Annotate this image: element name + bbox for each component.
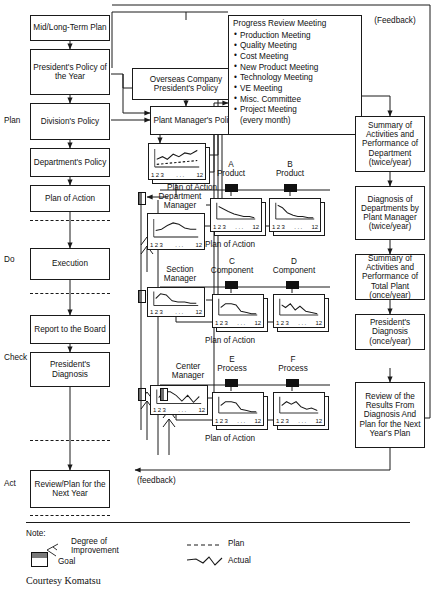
axis-tick-end: 12 — [316, 418, 322, 424]
axis-tick-end: 12 — [253, 224, 259, 230]
pdca-label-plan: Plan — [4, 116, 20, 125]
pdca-separator-check-act — [30, 440, 110, 441]
axis-tick-dots: . . . — [298, 418, 306, 424]
prm-item-cost[interactable]: Cost Meeting — [240, 52, 326, 63]
axis-tick-end: 12 — [196, 309, 202, 315]
goal-marker-d-component — [286, 281, 299, 289]
box-presidents-policy-of-the-year[interactable]: President's Policy of the Year — [30, 49, 110, 95]
chart-a-product[interactable]: 1 2 3 . . . 12 — [210, 198, 262, 232]
goal-marker-c-component — [225, 281, 238, 289]
box-review-of-results[interactable]: Review of the Results From Diagnosis And… — [355, 382, 425, 448]
prm-item-ve[interactable]: VE Meeting — [240, 84, 326, 95]
box-summary-department[interactable]: Summary of Activities and Performance of… — [355, 116, 425, 172]
chart-axis: 1 2 3 . . . 12 — [274, 320, 324, 327]
legend-actual-label: Actual — [228, 556, 251, 565]
chart-c-component[interactable]: 1 2 3 . . . 12 — [212, 294, 264, 328]
feedback-label-top: (Feedback) — [360, 16, 430, 25]
chart-axis: 1 2 3 . . . 12 — [151, 407, 207, 414]
chart-face: 1 2 3 . . . 12 — [147, 287, 205, 317]
chart-f-process[interactable]: 1 2 3 . . . 12 — [273, 392, 325, 426]
chart-plot — [149, 144, 205, 172]
note-divider — [26, 522, 410, 523]
label-f-process: F Process — [267, 355, 319, 373]
axis-tick-dots: . . . — [237, 418, 245, 424]
axis-tick-dots: . . . — [178, 407, 186, 413]
prm-frequency-note: (every month) — [240, 116, 326, 127]
chart-center-manager[interactable]: 1 2 3 . . . 12 — [150, 385, 208, 415]
axis-tick-end: 12 — [197, 172, 203, 178]
note-label: Note: — [26, 529, 46, 538]
box-review-plan-next-year[interactable]: Review/Plan for the Next Year — [30, 470, 110, 508]
box-presidents-diagnosis-once-year[interactable]: President's Diagnosis (once/year) — [355, 314, 425, 350]
prm-item-technology[interactable]: Technology Meeting — [240, 73, 326, 84]
box-plan-of-action[interactable]: Plan of Action — [30, 185, 110, 212]
box-presidents-diagnosis[interactable]: President's Diagnosis — [30, 352, 110, 387]
courtesy-credit: Courtesy Komatsu — [26, 575, 101, 586]
axis-tick-start: 1 2 3 — [272, 224, 285, 230]
axis-tick-start: 1 2 3 — [276, 418, 289, 424]
chart-face: 1 2 3 . . . 12 — [212, 392, 264, 426]
axis-tick-end: 12 — [316, 320, 322, 326]
box-plant-managers-policy[interactable]: Plant Manager's Policy — [150, 106, 240, 135]
chart-axis: 1 2 3 . . . 12 — [211, 224, 261, 231]
pdca-label-act: Act — [4, 479, 16, 488]
pdca-separator-act-end — [30, 515, 110, 516]
pdca-separator-do-check — [30, 293, 110, 294]
prm-item-new-product[interactable]: New Product Meeting — [240, 63, 326, 74]
prm-item-project[interactable]: Project Meeting — [240, 105, 326, 116]
axis-tick-start: 1 2 3 — [150, 309, 163, 315]
chart-face: 1 2 3 . . . 12 — [212, 294, 264, 328]
chart-plant-manager-policy[interactable]: 1 2 3 . . . 12 — [148, 143, 206, 180]
chart-plot — [148, 214, 204, 242]
caption-plan-of-action-row1: Plan of Action — [180, 240, 280, 249]
box-progress-review-meeting[interactable]: Progress Review Meeting Production Meeti… — [228, 15, 362, 135]
goal-marker-a-product — [225, 184, 238, 192]
chart-plot — [213, 393, 263, 418]
axis-tick-start: 1 2 3 — [153, 407, 166, 413]
caption-plan-of-action-row2: Plan of Action — [180, 336, 280, 345]
prm-heading: Progress Review Meeting — [233, 19, 326, 30]
chart-plot — [211, 199, 261, 224]
chart-face: 1 2 3 . . . 12 — [273, 294, 325, 328]
prm-item-misc-committee[interactable]: Misc. Committee — [240, 95, 326, 106]
box-summary-total-plant[interactable]: Summary of Activities and Performance of… — [355, 254, 425, 300]
axis-tick-end: 12 — [255, 320, 261, 326]
box-execution[interactable]: Execution — [30, 248, 110, 280]
diagram-canvas: Plan Do Check Act Mid/Long-Term Plan Pre… — [0, 0, 436, 593]
legend-plan-label: Plan — [228, 539, 244, 548]
box-report-to-the-board[interactable]: Report to the Board — [30, 315, 110, 344]
pdca-label-check: Check — [4, 353, 27, 362]
chart-d-component[interactable]: 1 2 3 . . . 12 — [273, 294, 325, 328]
chart-plot — [270, 199, 320, 224]
axis-tick-start: 1 2 3 — [213, 224, 226, 230]
chart-axis: 1 2 3 . . . 12 — [213, 320, 263, 327]
gate-marker-section — [138, 290, 146, 303]
legend-plan-line-icon — [186, 540, 226, 550]
chart-plot — [213, 295, 263, 320]
legend-actual-line-icon — [186, 554, 228, 570]
chart-section-manager[interactable]: 1 2 3 . . . 12 — [147, 287, 205, 317]
axis-tick-end: 12 — [199, 407, 205, 413]
gate-marker-department — [138, 192, 146, 205]
gate-marker-center-a — [138, 388, 146, 401]
axis-tick-dots: . . . — [237, 320, 245, 326]
box-departments-policy[interactable]: Department's Policy — [30, 148, 110, 177]
axis-tick-start: 1 2 3 — [215, 418, 228, 424]
chart-face: 1 2 3 . . . 12 — [269, 198, 321, 232]
box-divisions-policy[interactable]: Division's Policy — [30, 103, 110, 140]
prm-item-quality[interactable]: Quality Meeting — [240, 41, 326, 52]
box-overseas-company-presidents-policy[interactable]: Overseas Company President's Policy — [132, 68, 240, 100]
chart-face: 1 2 3 . . . 12 — [148, 143, 206, 180]
chart-plot — [274, 393, 324, 418]
label-d-component: D Component — [263, 257, 325, 275]
chart-b-product[interactable]: 1 2 3 . . . 12 — [269, 198, 321, 232]
prm-item-production[interactable]: Production Meeting — [240, 31, 326, 42]
chart-e-process[interactable]: 1 2 3 . . . 12 — [212, 392, 264, 426]
box-mid-long-term-plan[interactable]: Mid/Long-Term Plan — [30, 15, 110, 41]
chart-axis: 1 2 3 . . . 12 — [213, 418, 263, 425]
axis-tick-dots: . . . — [294, 224, 302, 230]
legend-degree-of-improvement-label: Degree of Improvement — [71, 537, 119, 555]
prm-list: Production Meeting Quality Meeting Cost … — [233, 31, 326, 127]
axis-tick-end: 12 — [255, 418, 261, 424]
box-diagnosis-departments[interactable]: Diagnosis of Departments by Plant Manage… — [355, 186, 425, 240]
